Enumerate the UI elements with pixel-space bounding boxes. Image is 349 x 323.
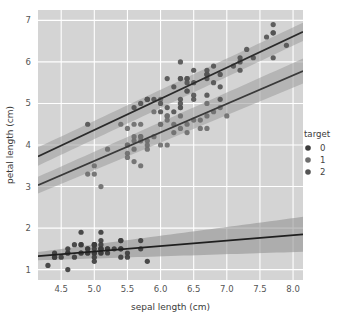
legend-label-1[interactable]: 1: [320, 155, 325, 165]
data-point: [65, 267, 70, 272]
data-point: [85, 171, 90, 176]
data-point: [211, 63, 216, 68]
data-point: [118, 238, 123, 243]
x-tick-label: 6.0: [154, 284, 168, 294]
data-point: [145, 142, 150, 147]
data-point: [165, 76, 170, 81]
chart-figure: 4.55.05.56.06.57.07.58.01234567sepal len…: [0, 0, 349, 323]
data-point: [98, 242, 103, 247]
data-point: [165, 142, 170, 147]
data-point: [59, 255, 64, 260]
data-point: [72, 255, 77, 260]
data-point: [138, 163, 143, 168]
data-point: [191, 93, 196, 98]
data-point: [178, 113, 183, 118]
data-point: [138, 238, 143, 243]
legend-marker-0[interactable]: [305, 145, 311, 151]
data-point: [92, 163, 97, 168]
legend-marker-1[interactable]: [305, 157, 311, 163]
y-tick-label: 3: [26, 182, 31, 192]
data-point: [85, 122, 90, 127]
y-tick-label: 1: [26, 265, 31, 275]
data-point: [204, 101, 209, 106]
x-tick-label: 8.0: [286, 284, 300, 294]
data-point: [178, 76, 183, 81]
legend: target012: [304, 129, 331, 177]
data-point: [171, 109, 176, 114]
data-point: [45, 263, 50, 268]
data-point: [198, 126, 203, 131]
data-point: [131, 147, 136, 152]
legend-title: target: [304, 129, 331, 139]
data-point: [145, 97, 150, 102]
data-point: [178, 59, 183, 64]
data-point: [158, 142, 163, 147]
data-point: [158, 122, 163, 127]
data-point: [131, 134, 136, 139]
data-point: [224, 113, 229, 118]
legend-marker-2[interactable]: [305, 169, 311, 175]
data-point: [165, 117, 170, 122]
data-point: [138, 122, 143, 127]
x-tick-label: 4.5: [54, 284, 68, 294]
x-tick-label: 7.0: [220, 284, 234, 294]
data-point: [178, 101, 183, 106]
data-point: [264, 34, 269, 39]
x-tick-label: 7.5: [253, 284, 267, 294]
data-point: [204, 93, 209, 98]
data-point: [78, 242, 83, 247]
data-point: [184, 88, 189, 93]
data-point: [125, 126, 130, 131]
data-point: [211, 80, 216, 85]
data-point: [92, 242, 97, 247]
y-tick-label: 4: [26, 140, 31, 150]
x-axis-label: sepal length (cm): [131, 302, 210, 312]
x-tick-label: 5.0: [88, 284, 102, 294]
y-tick-label: 5: [26, 98, 31, 108]
data-point: [244, 47, 249, 52]
data-point: [151, 109, 156, 114]
data-point: [271, 55, 276, 60]
data-point: [284, 43, 289, 48]
data-point: [165, 105, 170, 110]
x-tick-label: 5.5: [121, 284, 135, 294]
data-point: [92, 171, 97, 176]
data-point: [204, 126, 209, 131]
data-point: [145, 259, 150, 264]
data-point: [131, 122, 136, 127]
legend-label-0[interactable]: 0: [320, 143, 325, 153]
data-point: [178, 126, 183, 131]
x-tick-label: 6.5: [187, 284, 201, 294]
data-point: [78, 230, 83, 235]
y-axis-label: petal length (cm): [5, 106, 15, 184]
data-point: [105, 147, 110, 152]
data-point: [237, 68, 242, 73]
data-point: [171, 130, 176, 135]
data-point: [158, 101, 163, 106]
scatter-plot: 4.55.05.56.06.57.07.58.01234567sepal len…: [0, 0, 349, 323]
data-point: [98, 230, 103, 235]
data-point: [138, 101, 143, 106]
data-point: [184, 80, 189, 85]
data-point: [118, 255, 123, 260]
data-point: [171, 84, 176, 89]
data-point: [271, 30, 276, 35]
legend-label-2[interactable]: 2: [320, 167, 325, 177]
data-point: [158, 109, 163, 114]
data-point: [131, 159, 136, 164]
y-tick-label: 2: [26, 223, 31, 233]
data-point: [72, 242, 77, 247]
data-point: [98, 184, 103, 189]
data-point: [218, 97, 223, 102]
y-tick-label: 7: [26, 15, 31, 25]
data-point: [125, 155, 130, 160]
data-point: [218, 84, 223, 89]
data-point: [191, 68, 196, 73]
data-point: [131, 105, 136, 110]
data-point: [271, 22, 276, 27]
data-point: [118, 122, 123, 127]
data-point: [198, 117, 203, 122]
data-point: [125, 255, 130, 260]
data-point: [184, 130, 189, 135]
y-tick-label: 6: [26, 57, 31, 67]
